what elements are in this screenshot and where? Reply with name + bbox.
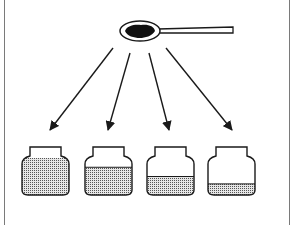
spoon-icon xyxy=(120,21,233,41)
arrow-3 xyxy=(149,53,169,130)
arrow-2 xyxy=(108,53,130,130)
arrows xyxy=(50,48,232,130)
diagram-canvas xyxy=(0,0,294,225)
jars xyxy=(22,147,255,195)
arrow-1 xyxy=(50,48,113,130)
jar-2 xyxy=(85,147,132,195)
jar-contents xyxy=(208,184,255,195)
jar-contents xyxy=(22,158,69,195)
jar-contents xyxy=(85,167,132,195)
jar-contents xyxy=(147,177,194,196)
jar-4 xyxy=(208,147,255,195)
jar-1 xyxy=(22,147,69,195)
arrow-4 xyxy=(166,48,232,130)
jar-3 xyxy=(147,147,194,195)
diagram xyxy=(0,0,294,225)
spoon-handle xyxy=(158,27,233,33)
